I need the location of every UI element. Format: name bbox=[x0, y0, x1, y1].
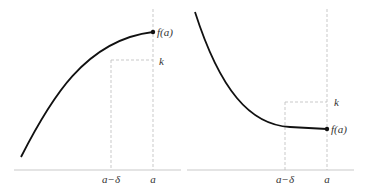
right-point-fa bbox=[325, 127, 329, 131]
right-panel: f(a) k a−δ a bbox=[187, 9, 354, 185]
left-label-k: k bbox=[159, 55, 165, 67]
left-label-a: a bbox=[150, 173, 156, 185]
right-label-k: k bbox=[334, 96, 340, 108]
left-curve bbox=[21, 32, 153, 157]
left-point-fa bbox=[151, 30, 155, 34]
right-label-fa: f(a) bbox=[331, 123, 347, 136]
right-curve bbox=[195, 12, 327, 129]
left-label-a-minus-delta: a−δ bbox=[102, 173, 121, 185]
right-label-a-minus-delta: a−δ bbox=[276, 173, 295, 185]
left-panel: f(a) k a−δ a bbox=[14, 9, 181, 185]
left-label-fa: f(a) bbox=[157, 26, 173, 39]
diagram-canvas: f(a) k a−δ a f(a) k a−δ a bbox=[0, 0, 374, 192]
right-label-a: a bbox=[324, 173, 330, 185]
